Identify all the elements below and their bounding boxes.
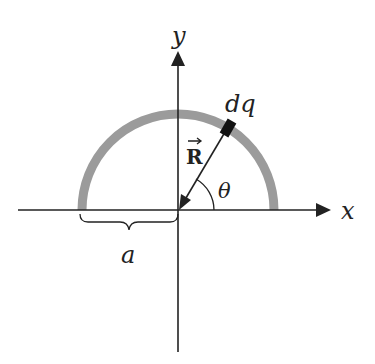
radius-brace bbox=[80, 214, 178, 230]
y-axis-label: y bbox=[171, 22, 186, 50]
angle-label: θ bbox=[218, 179, 231, 203]
y-axis-arrow-icon bbox=[171, 51, 185, 66]
position-vector-label: R bbox=[186, 145, 203, 169]
diagram-canvas: y x dq R θ a bbox=[0, 0, 375, 364]
vector-arrowhead-icon bbox=[179, 194, 191, 210]
x-axis-arrow-icon bbox=[316, 203, 331, 217]
angle-arc bbox=[196, 179, 214, 210]
charge-element-label: dq bbox=[225, 90, 256, 118]
x-axis-label: x bbox=[341, 197, 355, 225]
vector-arrow-overbar-icon bbox=[188, 138, 201, 144]
radius-label: a bbox=[121, 241, 135, 269]
